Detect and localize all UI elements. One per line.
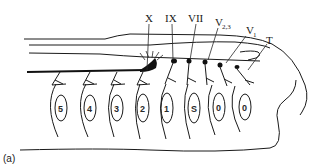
nerve-labels: X IX VII V 2,3 V 1 T [145,12,273,46]
segment-label: 1 [164,104,169,114]
label-v23-sub: 2,3 [222,23,231,31]
cranial-nerve-diagram: X IX VII V 2,3 V 1 T 5 4 [0,0,315,167]
arch-2: 2 [136,84,150,139]
label-ix: IX [165,12,177,24]
ganglion-v1 [218,63,223,68]
label-t: T [266,34,273,46]
ganglion-v23 [203,60,208,65]
label-x: X [145,12,153,24]
arch-4: 4 [80,84,96,137]
segment-label: 5 [58,104,63,114]
arch-1: 1 [161,84,174,139]
ganglion-vii [187,59,192,64]
segment-label: 2 [140,104,145,114]
arch-3: 3 [109,84,124,137]
panel-label: (a) [3,153,15,164]
segment-label: S [191,104,197,114]
label-vii: VII [188,12,204,24]
arch-0b: 0 [232,86,251,132]
ventral-outline [20,80,296,151]
label-v1-sub: 1 [253,31,257,39]
ganglion-t [235,65,240,69]
segment-label: 0 [242,103,247,113]
segment-label: 3 [114,104,119,114]
arch-s: S [184,84,200,139]
ganglion-ix [171,59,177,64]
segment-label: 4 [87,104,92,114]
arch-5: 5 [50,84,67,137]
arch-0a: 0 [208,85,225,135]
segment-label: 0 [216,103,221,113]
pharyngeal-arches: 5 4 3 2 1 S 0 [50,84,251,139]
